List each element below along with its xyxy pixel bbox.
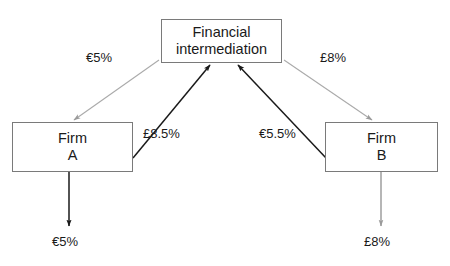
label-euro-mid-right: €5.5% xyxy=(259,126,296,141)
label-euro-top-left: €5% xyxy=(86,50,112,65)
node-financial-intermediation-line2: intermediation xyxy=(176,41,267,58)
edge-firm-a-to-intermediary xyxy=(133,65,210,158)
label-pound-bottom: £8% xyxy=(364,234,390,249)
edge-intermediary-to-firm-b xyxy=(284,60,372,120)
node-firm-b-line1: Firm xyxy=(367,130,396,147)
node-financial-intermediation-line1: Financial xyxy=(192,24,250,41)
node-firm-b-line2: B xyxy=(377,147,387,164)
node-financial-intermediation: Financial intermediation xyxy=(161,19,282,63)
edge-firm-b-to-intermediary xyxy=(238,65,326,158)
diagram-canvas: Financial intermediation Firm A Firm B €… xyxy=(0,0,450,266)
node-firm-a-line1: Firm xyxy=(58,130,87,147)
label-euro-bottom: €5% xyxy=(52,234,78,249)
label-pound-top-right: £8% xyxy=(320,50,346,65)
node-firm-a-line2: A xyxy=(68,147,78,164)
edge-intermediary-to-firm-a xyxy=(74,60,159,120)
node-firm-a: Firm A xyxy=(12,122,133,172)
node-firm-b: Firm B xyxy=(325,122,438,172)
label-pound-mid-left: £8.5% xyxy=(143,126,180,141)
